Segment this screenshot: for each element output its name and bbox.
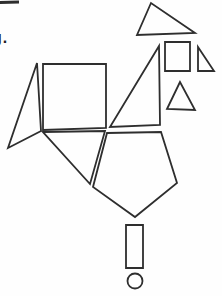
- small-right-triangle: [198, 47, 214, 71]
- small-isosceles-triangle: [167, 82, 195, 110]
- pentagon-body: [93, 132, 177, 217]
- top-triangle: [137, 3, 195, 35]
- top-rule-line: [0, 2, 19, 3]
- tall-right-triangle: [110, 46, 160, 127]
- cropped-text-label: g.: [0, 29, 8, 47]
- bottom-circle: [128, 274, 143, 289]
- small-square: [165, 42, 190, 71]
- left-sliver-triangle: [8, 63, 41, 148]
- figure-canvas: g.: [0, 0, 222, 296]
- small-rectangle-leg: [126, 225, 143, 268]
- figure-svg: [0, 0, 222, 296]
- large-square: [43, 64, 106, 130]
